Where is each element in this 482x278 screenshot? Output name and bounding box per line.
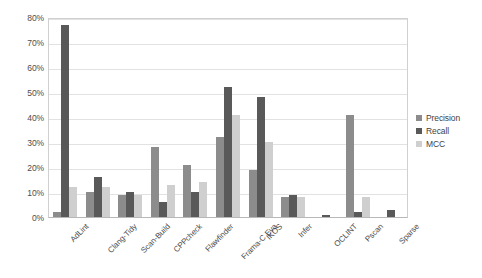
bar-mcc[interactable] [265, 142, 273, 217]
legend-label: Precision [426, 113, 460, 123]
legend-label: Recall [426, 126, 449, 136]
legend-swatch-icon [416, 115, 422, 121]
x-axis-tick: CPPcheck [146, 219, 179, 277]
x-axis-tick: AdLint [48, 219, 81, 277]
y-axis-tick-label: 80% [0, 13, 44, 23]
bar-recall[interactable] [61, 25, 69, 218]
bar-precision[interactable] [216, 137, 224, 217]
y-axis-tick-label: 50% [0, 88, 44, 98]
legend-label: MCC [426, 139, 445, 149]
bar-precision[interactable] [151, 147, 159, 217]
bar-precision[interactable] [183, 165, 191, 218]
bar-mcc[interactable] [69, 187, 77, 217]
bar-recall[interactable] [289, 195, 297, 218]
x-axis-tick: Pscan [343, 219, 376, 277]
bar-groups [49, 19, 407, 217]
y-axis-tick-label: 10% [0, 188, 44, 198]
bar-group [147, 19, 180, 217]
y-axis-tick-label: 30% [0, 138, 44, 148]
bar-precision[interactable] [118, 195, 126, 218]
bar-mcc[interactable] [199, 182, 207, 217]
bar-mcc[interactable] [134, 195, 142, 218]
bar-precision[interactable] [53, 212, 61, 217]
legend-item-recall[interactable]: Recall [416, 126, 460, 136]
bar-mcc[interactable] [167, 185, 175, 218]
legend-swatch-icon [416, 128, 422, 134]
y-axis-tick-label: 20% [0, 163, 44, 173]
x-axis-tick: Clang-Tidy [81, 219, 114, 277]
bar-group [212, 19, 245, 217]
bar-group [374, 19, 407, 217]
bar-recall[interactable] [94, 177, 102, 217]
bar-group [309, 19, 342, 217]
bar-recall[interactable] [322, 215, 330, 218]
bar-mcc[interactable] [102, 187, 110, 217]
plot-area [48, 18, 408, 218]
x-axis-tick-label: Sparse [397, 222, 421, 246]
legend-swatch-icon [416, 141, 422, 147]
bar-recall[interactable] [126, 192, 134, 217]
bar-group [244, 19, 277, 217]
x-axis-tick: OCLINT [310, 219, 343, 277]
bar-recall[interactable] [257, 97, 265, 217]
bar-recall[interactable] [159, 202, 167, 217]
bar-group [277, 19, 310, 217]
bar-group [114, 19, 147, 217]
bar-chart: 0%10%20%30%40%50%60%70%80% AdLintClang-T… [0, 0, 482, 278]
bar-recall[interactable] [224, 87, 232, 217]
y-axis-tick-label: 70% [0, 38, 44, 48]
legend: PrecisionRecallMCC [416, 113, 460, 149]
bar-recall[interactable] [191, 192, 199, 217]
legend-item-mcc[interactable]: MCC [416, 139, 460, 149]
legend-item-precision[interactable]: Precision [416, 113, 460, 123]
bar-group [342, 19, 375, 217]
bar-precision[interactable] [346, 115, 354, 218]
bar-recall[interactable] [354, 212, 362, 217]
bar-mcc[interactable] [362, 197, 370, 217]
x-axis-tick: Scan-Build [113, 219, 146, 277]
bar-group [49, 19, 82, 217]
bar-precision[interactable] [281, 197, 289, 217]
bar-precision[interactable] [249, 170, 257, 218]
y-axis-tick-label: 60% [0, 63, 44, 73]
x-axis-tick: IKOS [244, 219, 277, 277]
x-axis-tick: Sparse [375, 219, 408, 277]
bar-precision[interactable] [86, 192, 94, 217]
bar-recall[interactable] [387, 210, 395, 218]
x-axis-tick: Frama-C Eva [212, 219, 245, 277]
x-axis-tick: Flawfinder [179, 219, 212, 277]
y-axis-tick-label: 40% [0, 113, 44, 123]
bar-mcc[interactable] [232, 115, 240, 218]
x-axis-tick: Infer [277, 219, 310, 277]
y-axis-tick-label: 0% [0, 213, 44, 223]
bar-group [179, 19, 212, 217]
x-axis: AdLintClang-TidyScan-BuildCPPcheckFlawfi… [48, 219, 408, 277]
bar-mcc[interactable] [297, 197, 305, 217]
bar-group [82, 19, 115, 217]
